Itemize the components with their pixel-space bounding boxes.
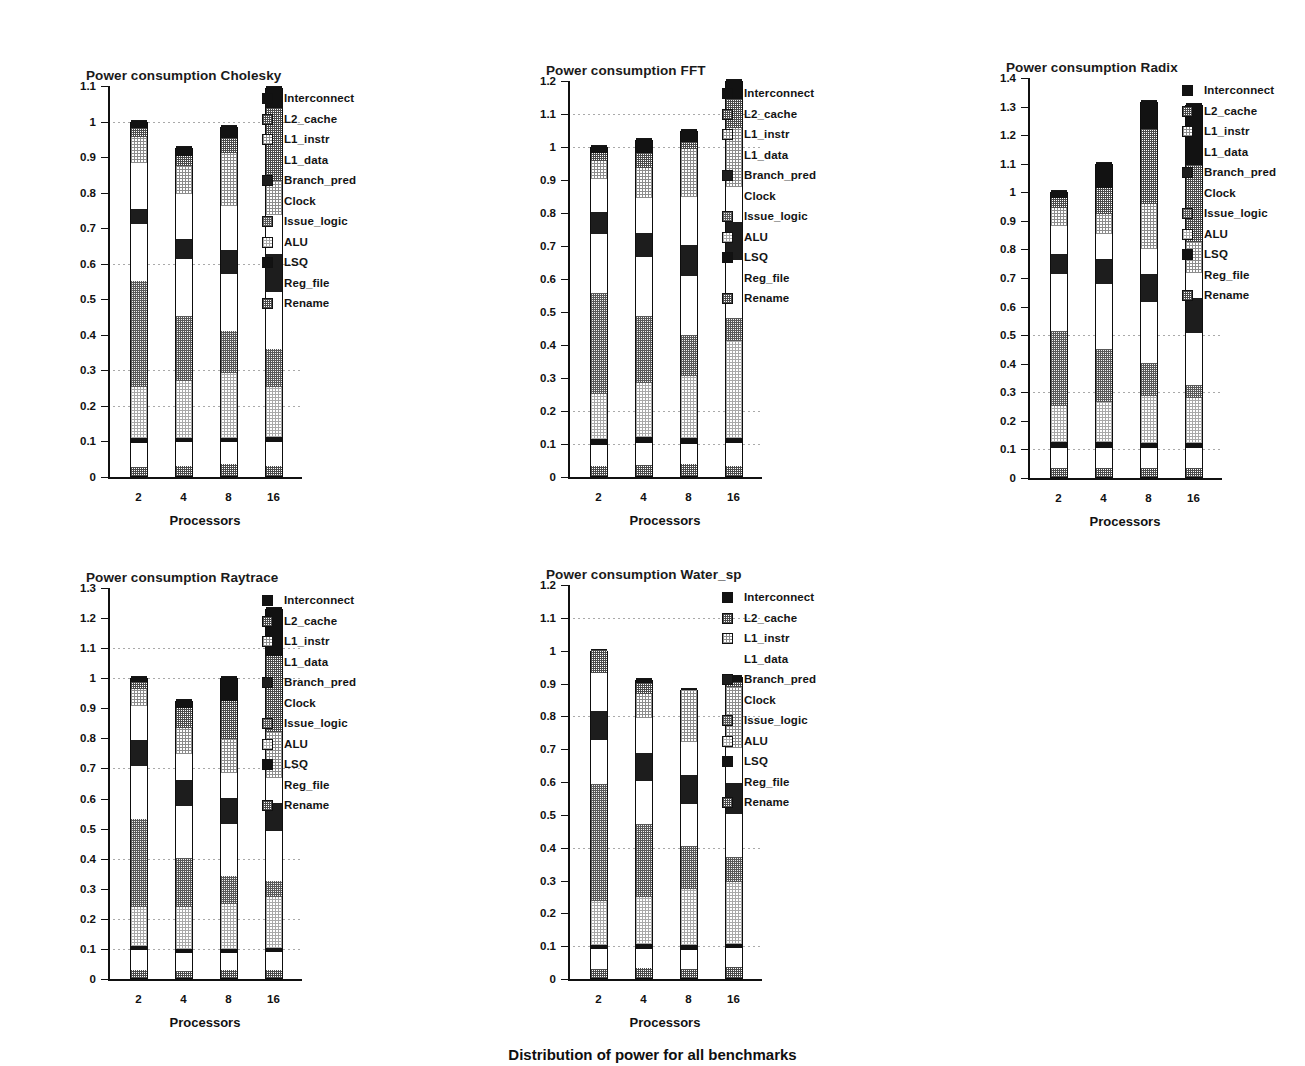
legend-swatch-alu xyxy=(262,237,273,248)
legend-label: Clock xyxy=(1204,184,1236,203)
segment-divider xyxy=(636,138,652,139)
bar-segment-l1_instr xyxy=(221,153,237,206)
segment-divider xyxy=(1186,103,1202,104)
segment-divider xyxy=(176,699,192,700)
bar-segment-l1_instr xyxy=(176,166,192,194)
y-tick xyxy=(1021,249,1028,250)
bar-segment-issue_logic xyxy=(1051,331,1067,406)
y-tick-label: 0.1 xyxy=(510,940,556,952)
y-axis-line xyxy=(1028,78,1030,479)
segment-divider xyxy=(636,678,652,679)
x-tick-label: 16 xyxy=(704,993,764,1005)
y-tick xyxy=(1021,78,1028,79)
y-tick-label: 0.4 xyxy=(50,329,96,341)
legend-label: LSQ xyxy=(284,253,308,272)
y-tick xyxy=(101,406,108,407)
bar-segment-clock xyxy=(266,831,282,882)
legend-label: Reg_file xyxy=(1204,266,1250,285)
legend-swatch-lsq xyxy=(1182,249,1193,260)
bar-segment-clock xyxy=(1096,284,1112,349)
y-tick xyxy=(101,477,108,478)
bar-segment-lsq xyxy=(1096,442,1112,448)
legend-label: L1_instr xyxy=(284,632,330,651)
y-tick xyxy=(561,81,568,82)
bar-segment-l2_cache xyxy=(221,701,237,739)
bar-segment-issue_logic xyxy=(176,316,192,381)
bar-segment-rename xyxy=(1141,468,1157,477)
bar-segment-alu xyxy=(681,889,697,945)
y-tick xyxy=(101,678,108,679)
bar-segment-branch_pred xyxy=(681,245,697,276)
legend-swatch-alu xyxy=(262,739,273,750)
bar-segment-branch_pred xyxy=(1186,298,1202,334)
y-tick xyxy=(561,312,568,313)
y-tick-label: 0.3 xyxy=(50,883,96,895)
legend-label: LSQ xyxy=(284,755,308,774)
legend-label: Rename xyxy=(1204,286,1249,305)
bar-segment-l1_data xyxy=(681,742,697,775)
bar-segment-issue_logic xyxy=(176,858,192,908)
bar-segment-clock xyxy=(726,260,742,318)
legend-label: Branch_pred xyxy=(1204,163,1276,182)
legend-swatch-rename xyxy=(1182,290,1193,301)
legend-label: L2_cache xyxy=(284,612,337,631)
bar-segment-lsq xyxy=(591,945,607,950)
legend-label: Rename xyxy=(744,289,789,308)
bar-segment-issue_logic xyxy=(591,293,607,394)
legend-label: ALU xyxy=(284,735,308,754)
legend-swatch-branch_pred xyxy=(722,170,733,181)
y-tick-label: 0.2 xyxy=(970,415,1016,427)
bar-segment-l1_instr xyxy=(636,694,652,718)
legend-label: L2_cache xyxy=(744,105,797,124)
legend-label: ALU xyxy=(744,732,768,751)
legend-swatch-branch_pred xyxy=(262,677,273,688)
y-tick-label: 1.1 xyxy=(50,80,96,92)
bar-segment-rename xyxy=(681,969,697,978)
legend-swatch-rename xyxy=(262,298,273,309)
bar-segment-l2_cache xyxy=(591,650,607,674)
bar-segment-clock xyxy=(221,824,237,876)
stacked-bar xyxy=(1140,102,1158,478)
stacked-bar xyxy=(265,88,283,477)
bar-segment-l1_instr xyxy=(131,137,147,164)
legend-label: Issue_logic xyxy=(744,207,808,226)
bar-segment-interconnect xyxy=(176,700,192,708)
bar-segment-l2_cache xyxy=(131,128,147,137)
bar-segment-interconnect xyxy=(221,677,237,701)
y-tick xyxy=(1021,307,1028,308)
y-tick xyxy=(101,859,108,860)
legend-label: Branch_pred xyxy=(744,166,816,185)
y-tick-label: 0 xyxy=(50,973,96,985)
bar-segment-rename xyxy=(726,967,742,978)
figure-power-consumption-benchmarks: { "figure": { "caption": "Distribution o… xyxy=(0,0,1305,1066)
legend-swatch-l1_instr xyxy=(722,633,733,644)
legend-swatch-issue_logic xyxy=(262,216,273,227)
legend-label: ALU xyxy=(1204,225,1228,244)
bar-segment-rename xyxy=(591,969,607,978)
y-tick-label: 1.2 xyxy=(510,75,556,87)
y-tick xyxy=(1021,221,1028,222)
bar-segment-alu xyxy=(176,907,192,948)
bar-segment-issue_logic xyxy=(726,318,742,342)
bar-segment-l1_instr xyxy=(1051,208,1067,227)
legend-label: L1_data xyxy=(284,151,328,170)
bar-segment-rename xyxy=(131,467,147,476)
y-tick-label: 0.5 xyxy=(510,306,556,318)
bar-segment-l1_data xyxy=(131,163,147,209)
legend-label: Clock xyxy=(284,192,316,211)
legend-label: Rename xyxy=(284,796,329,815)
y-tick xyxy=(101,86,108,87)
bar-segment-rename xyxy=(681,464,697,476)
chart-title: Power consumption Raytrace xyxy=(86,570,278,585)
legend-swatch-lsq xyxy=(722,756,733,767)
y-tick-label: 1.1 xyxy=(510,612,556,624)
y-tick xyxy=(101,708,108,709)
bar-segment-branch_pred xyxy=(221,250,237,274)
legend-swatch-alu xyxy=(722,232,733,243)
y-tick xyxy=(101,157,108,158)
legend-swatch-issue_logic xyxy=(722,211,733,222)
bar-segment-issue_logic xyxy=(131,281,147,388)
bar-segment-clock xyxy=(591,234,607,293)
segment-divider xyxy=(221,125,237,126)
bar-segment-branch_pred xyxy=(176,780,192,806)
